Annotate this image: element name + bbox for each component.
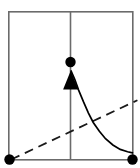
impulse-response-diagram xyxy=(0,0,140,168)
peak-marker xyxy=(65,57,75,67)
figure-container: Impulse response diagram xyxy=(0,0,140,168)
terminal-marker xyxy=(127,154,137,164)
origin-marker xyxy=(4,154,14,164)
